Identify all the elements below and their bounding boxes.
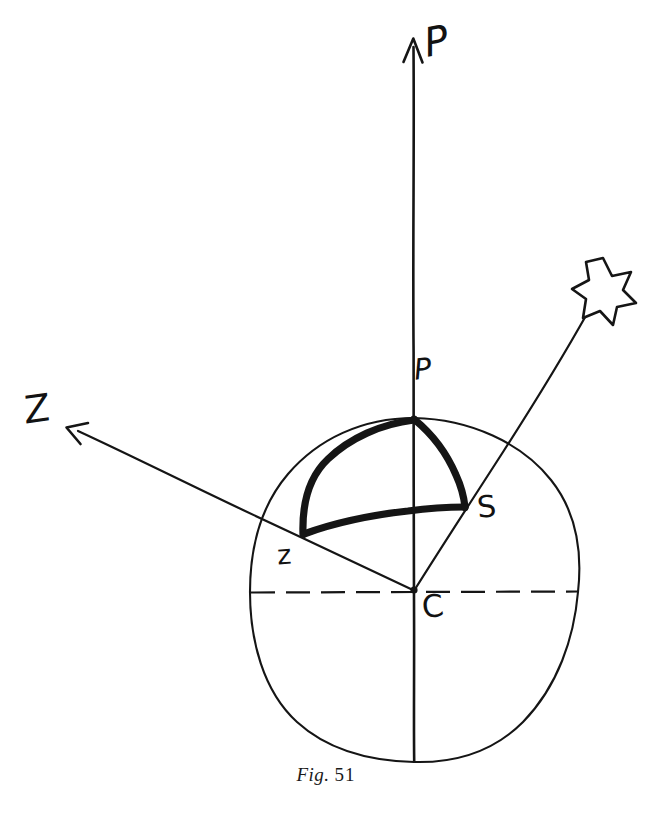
vertex-S [462, 505, 468, 511]
star-icon [572, 258, 636, 325]
caption-prefix: Fig. [297, 764, 330, 785]
vertex-z [300, 532, 306, 538]
arc-pole-to-star [415, 420, 465, 507]
caption-number: 51 [334, 764, 355, 785]
label-centre-C: C [420, 590, 445, 623]
label-zenith-direction-Z: Z [23, 388, 51, 430]
celestial-sphere-diagram [0, 0, 652, 819]
label-zenith-z: z [276, 541, 292, 569]
polar-axis-line [413, 47, 414, 761]
zenith-ray-line [78, 431, 414, 591]
vertex-C [410, 586, 417, 593]
figure-container: P P Z z S C Fig. 51 [0, 0, 652, 819]
figure-caption: Fig. 51 [0, 764, 652, 786]
vertex-P [411, 416, 418, 423]
arc-zenith-to-star [304, 507, 465, 534]
polar-axis-group [404, 39, 423, 762]
star-ray-group [415, 258, 637, 590]
zenith-ray-group [67, 423, 415, 591]
label-pole-P: P [413, 354, 433, 385]
label-star-S: S [476, 491, 498, 523]
astronomical-triangle [303, 420, 465, 534]
